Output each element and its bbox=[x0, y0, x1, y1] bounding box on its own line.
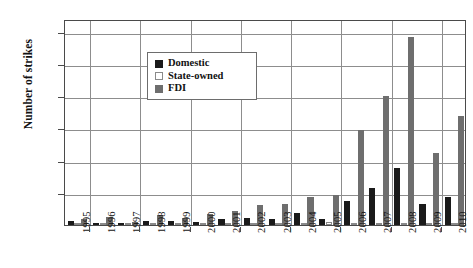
bar-domestic bbox=[168, 221, 174, 225]
x-tick-label: 2004 bbox=[307, 211, 318, 233]
bar-domestic bbox=[319, 219, 325, 225]
x-tick-label: 1997 bbox=[131, 211, 142, 233]
black-square-icon bbox=[155, 60, 163, 68]
white-square-icon bbox=[155, 72, 163, 80]
bar-domestic bbox=[244, 218, 250, 225]
bar-state bbox=[301, 223, 307, 225]
bar-state bbox=[74, 223, 80, 225]
x-tick-mark bbox=[190, 227, 191, 232]
gray-square-icon bbox=[155, 85, 163, 93]
bar-domestic bbox=[68, 221, 74, 225]
bar-state bbox=[125, 223, 131, 225]
chart-legend: Domestic State-owned FDI bbox=[147, 52, 257, 100]
y-axis-title: Number of strikes bbox=[22, 14, 34, 154]
bar-domestic bbox=[218, 219, 224, 225]
bar-group bbox=[68, 21, 88, 225]
bar-domestic bbox=[143, 221, 149, 226]
legend-item-domestic: Domestic bbox=[155, 58, 250, 70]
bar-domestic bbox=[93, 223, 99, 225]
bar-group bbox=[394, 21, 414, 225]
plot-area: Domestic State-owned FDI bbox=[64, 20, 466, 226]
bar-state bbox=[326, 222, 332, 225]
bar-group bbox=[269, 21, 289, 225]
bar-domestic bbox=[294, 213, 300, 225]
bar-group bbox=[419, 21, 439, 225]
bar-group bbox=[369, 21, 389, 225]
bar-domestic bbox=[394, 168, 400, 225]
x-tick-label: 2000 bbox=[206, 211, 217, 233]
vertical-gridline bbox=[90, 21, 91, 225]
bar-group bbox=[445, 21, 465, 225]
bar-state bbox=[275, 223, 281, 225]
legend-item-fdi: FDI bbox=[155, 83, 250, 95]
bar-group bbox=[118, 21, 138, 225]
bar-group bbox=[344, 21, 364, 225]
x-tick-label: 2006 bbox=[357, 211, 368, 233]
vertical-gridline bbox=[291, 21, 292, 225]
x-tick-label: 2008 bbox=[407, 211, 418, 233]
vertical-gridline bbox=[341, 21, 342, 225]
bar-domestic bbox=[269, 219, 275, 225]
bar-fdi bbox=[383, 96, 389, 225]
bar-group bbox=[294, 21, 314, 225]
x-tick-mark bbox=[290, 227, 291, 232]
x-tick-label: 2005 bbox=[332, 211, 343, 233]
x-tick-mark bbox=[139, 227, 140, 232]
bar-group bbox=[319, 21, 339, 225]
bar-domestic bbox=[118, 223, 124, 225]
legend-label: FDI bbox=[168, 83, 186, 94]
x-tick-label: 1998 bbox=[156, 211, 167, 233]
x-tick-mark bbox=[391, 227, 392, 232]
x-tick-label: 2010 bbox=[457, 211, 468, 233]
bar-domestic bbox=[344, 201, 350, 225]
x-tick-mark bbox=[340, 227, 341, 232]
legend-label: State-owned bbox=[168, 71, 223, 82]
legend-label: Domestic bbox=[168, 58, 209, 69]
vertical-gridline bbox=[442, 21, 443, 225]
x-tick-mark bbox=[441, 227, 442, 232]
vertical-gridline bbox=[140, 21, 141, 225]
x-tick-label: 2002 bbox=[256, 211, 267, 233]
x-tick-mark bbox=[89, 227, 90, 232]
bar-domestic bbox=[445, 197, 451, 225]
bar-chart: Number of strikes 100200300400500600 Dom… bbox=[0, 0, 473, 268]
bar-state bbox=[100, 223, 106, 225]
bar-fdi bbox=[458, 116, 464, 225]
bar-group bbox=[93, 21, 113, 225]
bar-domestic bbox=[419, 204, 425, 225]
bar-fdi bbox=[408, 37, 414, 225]
bar-domestic bbox=[369, 188, 375, 225]
vertical-gridline bbox=[392, 21, 393, 225]
legend-item-state-owned: State-owned bbox=[155, 70, 250, 82]
x-tick-mark bbox=[240, 227, 241, 232]
x-tick-label: 1996 bbox=[106, 211, 117, 233]
bar-domestic bbox=[193, 222, 199, 225]
